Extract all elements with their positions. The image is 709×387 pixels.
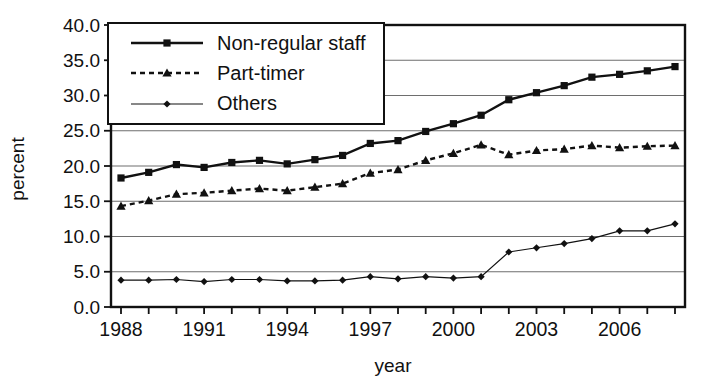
thin-line-diamond-marker-icon xyxy=(129,96,205,112)
legend-row-part-timer: Part-timer xyxy=(129,62,383,85)
svg-text:15.0: 15.0 xyxy=(63,191,100,212)
svg-text:35.0: 35.0 xyxy=(63,50,100,71)
legend-row-non-regular-staff: Non-regular staff xyxy=(129,32,383,55)
legend-label: Part-timer xyxy=(217,62,305,85)
svg-text:40.0: 40.0 xyxy=(63,15,100,36)
dashed-line-triangle-marker-icon xyxy=(129,65,205,81)
svg-text:2000: 2000 xyxy=(432,318,476,340)
svg-text:1991: 1991 xyxy=(182,318,225,340)
svg-text:25.0: 25.0 xyxy=(63,120,100,141)
svg-text:5.0: 5.0 xyxy=(74,261,100,282)
line-chart-figure: 0.05.010.015.020.025.030.035.040.0198819… xyxy=(0,0,709,387)
legend-label: Non-regular staff xyxy=(217,32,366,55)
svg-text:10.0: 10.0 xyxy=(63,226,100,247)
svg-text:1994: 1994 xyxy=(266,318,310,340)
y-axis-title: percent xyxy=(7,89,29,249)
svg-text:2006: 2006 xyxy=(598,318,641,340)
legend: Non-regular staff Part-timer Others xyxy=(107,22,385,125)
svg-text:1997: 1997 xyxy=(349,318,392,340)
svg-text:1988: 1988 xyxy=(99,318,142,340)
svg-text:0.0: 0.0 xyxy=(74,297,100,318)
svg-text:2003: 2003 xyxy=(515,318,558,340)
svg-text:20.0: 20.0 xyxy=(63,156,100,177)
x-axis-title: year xyxy=(330,355,456,377)
legend-row-others: Others xyxy=(129,92,383,115)
solid-line-square-marker-icon xyxy=(129,35,205,51)
legend-label: Others xyxy=(217,92,277,115)
svg-text:30.0: 30.0 xyxy=(63,85,100,106)
